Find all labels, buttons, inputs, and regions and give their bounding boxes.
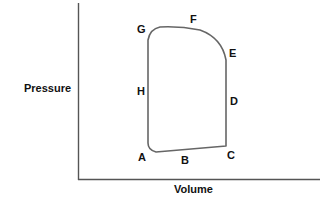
- pv-loop-curve: [148, 27, 226, 152]
- point-label-h: H: [137, 86, 145, 97]
- point-label-b: B: [181, 155, 189, 166]
- point-label-e: E: [229, 48, 236, 59]
- point-label-g: G: [137, 24, 146, 35]
- pv-diagram: [0, 0, 332, 202]
- point-label-f: F: [190, 14, 197, 25]
- point-label-a: A: [138, 152, 146, 163]
- point-label-d: D: [230, 96, 238, 107]
- point-label-c: C: [227, 150, 235, 161]
- x-axis-label: Volume: [174, 184, 213, 195]
- y-axis-label: Pressure: [24, 83, 71, 94]
